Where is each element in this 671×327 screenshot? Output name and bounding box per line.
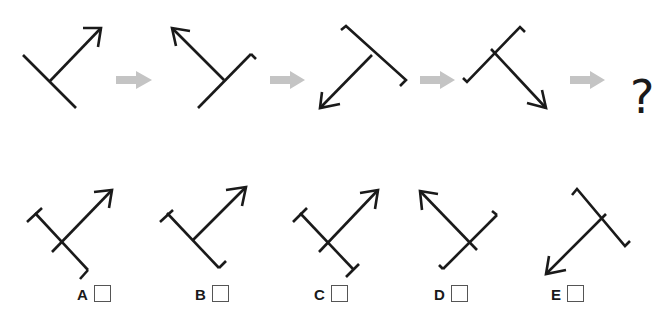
option-a-checkbox[interactable] <box>94 285 111 302</box>
option-d-checkbox[interactable] <box>451 285 468 302</box>
puzzle-canvas <box>0 0 671 327</box>
option-c-checkbox[interactable] <box>331 285 348 302</box>
option-figure-b <box>160 187 246 268</box>
sequence-figure-4 <box>463 27 546 108</box>
unknown-figure-question-mark: ? <box>630 70 654 124</box>
option-figure-a <box>27 190 112 279</box>
option-figure-c <box>293 190 378 277</box>
sequence-arrow-3 <box>420 71 455 89</box>
sequence-arrow-1 <box>116 71 152 89</box>
option-e-checkbox[interactable] <box>567 285 584 302</box>
sequence-arrow-4 <box>570 71 605 89</box>
sequence-figure-2 <box>172 28 256 108</box>
option-e-label: E <box>551 286 561 303</box>
option-figure-e <box>546 189 630 274</box>
sequence-figure-1 <box>23 28 101 108</box>
option-a-label: A <box>77 286 88 303</box>
sequence-arrow-2 <box>270 71 305 89</box>
option-b-label: B <box>195 286 206 303</box>
option-d-label: D <box>434 286 445 303</box>
sequence-figure-3 <box>320 26 406 108</box>
option-c-label: C <box>314 286 325 303</box>
option-b-checkbox[interactable] <box>212 285 229 302</box>
option-figure-d <box>420 191 497 269</box>
